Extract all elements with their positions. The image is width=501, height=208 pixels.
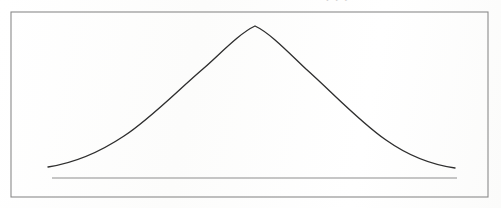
figure-container: f f f [0, 0, 501, 208]
normal-distribution-curve [48, 26, 455, 168]
figure-border [11, 12, 488, 197]
bell-curve-figure [0, 0, 501, 208]
